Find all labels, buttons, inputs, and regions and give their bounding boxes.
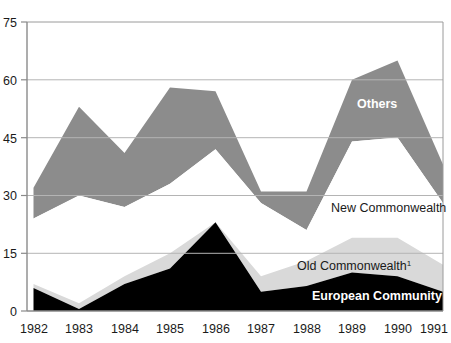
x-axis-labels: 1982 1983 1984 1985 1986 1987 1988 1989 … (20, 322, 448, 336)
x-tick-label-1986: 1986 (202, 322, 230, 336)
x-tick-label-1983: 1983 (65, 322, 93, 336)
x-tick-label-1988: 1988 (293, 322, 321, 336)
x-tick-label-1990: 1990 (384, 322, 412, 336)
series-label-old-commonwealth-text: Old Commonwealth (297, 259, 407, 273)
y-tick-marks (21, 22, 27, 311)
x-tick-label-1985: 1985 (156, 322, 184, 336)
y-tick-label-30: 30 (3, 189, 17, 203)
stacked-area-chart: 75 60 45 30 15 0 1982 1983 1984 1985 198… (0, 0, 451, 343)
x-tick-label-1991: 1991 (420, 322, 448, 336)
chart-canvas: 75 60 45 30 15 0 1982 1983 1984 1985 198… (0, 0, 451, 343)
y-tick-label-0: 0 (10, 305, 17, 319)
y-tick-label-45: 45 (3, 132, 17, 146)
y-axis-labels: 75 60 45 30 15 0 (3, 16, 17, 319)
series-label-new-commonwealth: New Commonwealth (331, 201, 446, 215)
y-tick-label-75: 75 (3, 16, 17, 30)
series-label-others: Others (357, 97, 397, 111)
x-tick-label-1982: 1982 (20, 322, 48, 336)
y-tick-label-60: 60 (3, 74, 17, 88)
x-tick-label-1984: 1984 (111, 322, 139, 336)
series-label-old-commonwealth: Old Commonwealth1 (297, 259, 412, 274)
x-tick-label-1989: 1989 (338, 322, 366, 336)
y-tick-label-15: 15 (3, 247, 17, 261)
series-label-european-community: European Community (312, 289, 442, 303)
x-tick-label-1987: 1987 (247, 322, 275, 336)
series-label-old-commonwealth-footnote: 1 (407, 259, 412, 268)
